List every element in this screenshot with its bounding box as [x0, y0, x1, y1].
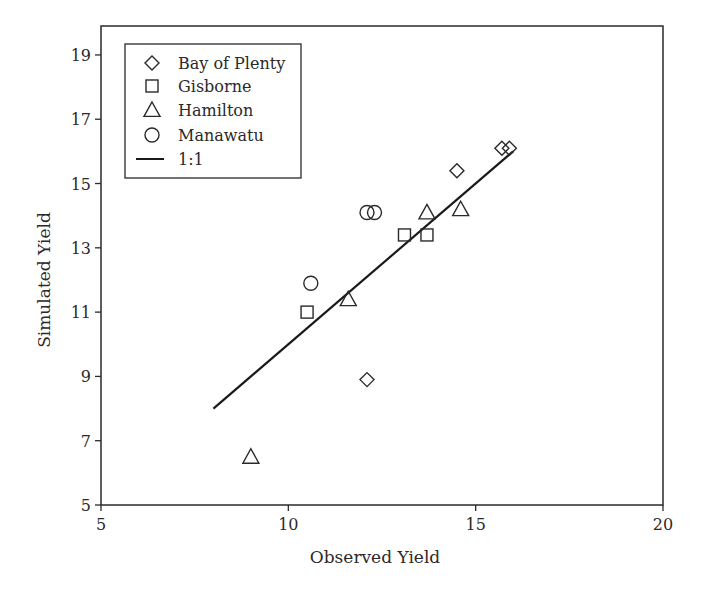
- circle-marker-icon: [304, 276, 318, 290]
- y-tick-label: 11: [71, 303, 91, 322]
- y-axis: 5791113151719: [71, 46, 101, 515]
- legend-label: Gisborne: [178, 77, 251, 96]
- x-axis: 5101520: [96, 505, 673, 534]
- square-marker-icon: [421, 229, 433, 241]
- y-tick-label: 9: [81, 367, 91, 386]
- series-hamilton: [243, 201, 469, 463]
- legend-label: Bay of Plenty: [178, 54, 285, 73]
- one-to-one-line: [213, 151, 513, 408]
- scatter-chart: 5101520 5791113151719 Observed Yield Sim…: [0, 0, 706, 597]
- triangle-marker-icon: [453, 201, 469, 215]
- x-tick-label: 5: [96, 515, 106, 534]
- x-axis-label: Observed Yield: [310, 547, 441, 567]
- y-tick-label: 5: [81, 496, 91, 515]
- legend-label: Hamilton: [178, 101, 253, 120]
- y-axis-label: Simulated Yield: [34, 212, 54, 348]
- x-tick-label: 20: [653, 515, 673, 534]
- triangle-marker-icon: [419, 204, 435, 218]
- triangle-marker-icon: [243, 449, 259, 463]
- x-tick-label: 10: [278, 515, 298, 534]
- data-points: [243, 141, 517, 463]
- y-tick-label: 19: [71, 46, 91, 65]
- y-tick-label: 17: [71, 110, 91, 129]
- one-to-one-line-path: [213, 151, 513, 408]
- x-tick-label: 15: [465, 515, 485, 534]
- y-tick-label: 13: [71, 239, 91, 258]
- legend: Bay of PlentyGisborneHamiltonManawatu1:1: [125, 44, 301, 178]
- series-gisborne: [301, 229, 433, 318]
- legend-label: Manawatu: [178, 126, 264, 145]
- square-marker-icon: [301, 306, 313, 318]
- y-tick-label: 7: [81, 432, 91, 451]
- series-manawatu: [304, 205, 382, 290]
- diamond-marker-icon: [360, 373, 374, 387]
- legend-label: 1:1: [178, 150, 204, 169]
- square-marker-icon: [398, 229, 410, 241]
- diamond-marker-icon: [450, 164, 464, 178]
- y-tick-label: 15: [71, 175, 91, 194]
